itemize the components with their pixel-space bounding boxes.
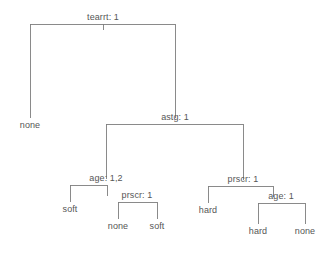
leaf-label-none-2: none xyxy=(108,221,128,232)
leaf-label-soft-2: soft xyxy=(150,221,165,232)
node-label-age-right: age: 1 xyxy=(268,191,294,202)
node-label-prscr-left: prscr: 1 xyxy=(122,190,153,201)
leaf-label-none-3: none xyxy=(295,226,315,237)
node-label-tearrt: tearrt: 1 xyxy=(87,12,119,23)
node-label-prscr-right: prscr: 1 xyxy=(228,174,259,185)
decision-tree-diagram: tearrt: 1 astg: 1 age: 1,2 prscr: 1 prsc… xyxy=(0,0,325,254)
leaf-label-hard-1: hard xyxy=(199,205,217,216)
node-label-astg: astg: 1 xyxy=(161,112,189,123)
tree-edges-layer xyxy=(0,0,325,254)
leaf-label-hard-2: hard xyxy=(249,226,267,237)
leaf-label-soft-1: soft xyxy=(63,204,78,215)
node-label-age-left: age: 1,2 xyxy=(89,173,122,184)
leaf-label-none-1: none xyxy=(20,120,40,131)
